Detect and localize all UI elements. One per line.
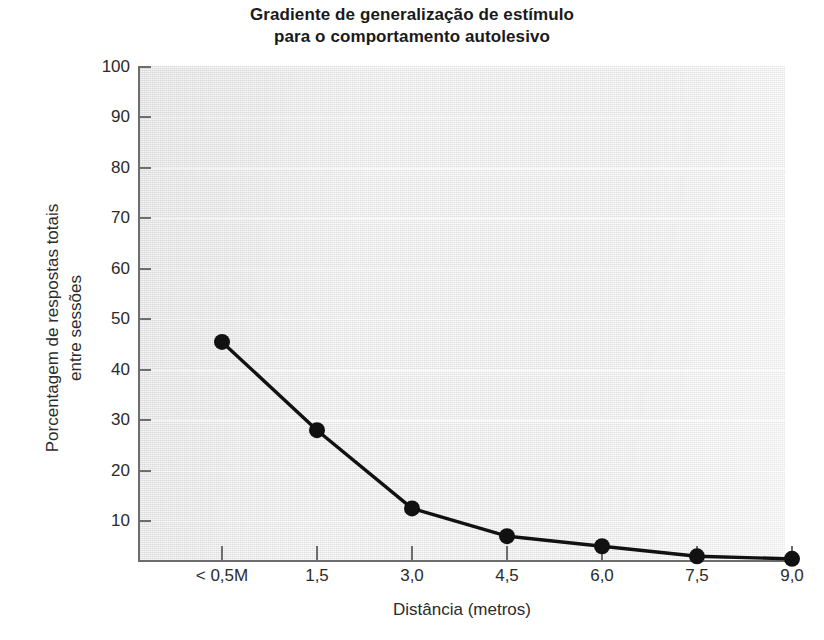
y-axis-tick	[140, 318, 151, 320]
x-axis-tick	[316, 546, 318, 560]
y-gridline	[139, 117, 785, 118]
y-axis-tick-label: 10	[84, 511, 130, 531]
y-axis-tick-label: 50	[84, 309, 130, 329]
y-gridline	[139, 269, 785, 270]
y-gridline	[139, 218, 785, 219]
plot-vignette	[139, 66, 785, 560]
x-axis-tick	[601, 546, 603, 560]
x-axis-tick-label: < 0,5M	[167, 566, 277, 586]
y-gridline	[139, 521, 785, 522]
x-axis-line	[138, 560, 785, 562]
x-axis-tick-label: 6,0	[547, 566, 657, 586]
y-axis-tick	[140, 470, 151, 472]
y-axis-tick	[140, 167, 151, 169]
x-axis-tick	[411, 546, 413, 560]
x-axis-tick	[696, 546, 698, 560]
y-gridline	[139, 370, 785, 371]
y-gridline	[139, 420, 785, 421]
y-axis-tick-label: 70	[84, 208, 130, 228]
y-gridline	[139, 168, 785, 169]
y-axis-tick	[140, 116, 151, 118]
y-axis-tick-label: 90	[84, 107, 130, 127]
y-axis-tick	[140, 268, 151, 270]
y-axis-tick-label: 20	[84, 461, 130, 481]
x-axis-tick-label: 4,5	[452, 566, 562, 586]
y-axis-title-line-2: entre sessões	[64, 118, 87, 538]
plot-area	[139, 66, 785, 560]
y-axis-tick	[140, 217, 151, 219]
x-axis-tick-label: 7,5	[642, 566, 752, 586]
y-axis-title: Porcentagem de respostas totais entre se…	[41, 118, 87, 538]
y-axis-tick	[140, 520, 151, 522]
y-axis-tick	[140, 369, 151, 371]
y-gridline	[139, 67, 785, 68]
plot-background-texture	[139, 66, 785, 560]
y-axis-tick-label: 60	[84, 259, 130, 279]
y-axis-tick	[140, 419, 151, 421]
x-axis-tick-label: 9,0	[737, 566, 824, 586]
x-axis-tick	[221, 546, 223, 560]
x-axis-title: Distância (metros)	[139, 600, 785, 620]
y-axis-tick	[140, 66, 151, 68]
y-gridline	[139, 471, 785, 472]
y-axis-tick-label: 100	[84, 57, 130, 77]
x-axis-tick	[791, 546, 793, 560]
x-axis-tick-label: 1,5	[262, 566, 372, 586]
y-axis-title-line-1: Porcentagem de respostas totais	[41, 118, 64, 538]
y-gridline	[139, 319, 785, 320]
y-axis-tick-label: 80	[84, 158, 130, 178]
y-axis-line	[138, 66, 140, 562]
x-axis-tick	[506, 546, 508, 560]
x-axis-tick-label: 3,0	[357, 566, 467, 586]
y-axis-tick-label: 30	[84, 410, 130, 430]
y-axis-tick-label: 40	[84, 360, 130, 380]
